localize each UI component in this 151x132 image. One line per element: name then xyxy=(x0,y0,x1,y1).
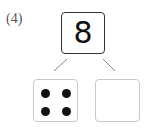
dot-icon xyxy=(62,107,71,116)
dots-part-box xyxy=(33,79,78,122)
dot-icon xyxy=(41,107,50,116)
dot-icon xyxy=(62,89,71,98)
answer-blank-box[interactable] xyxy=(95,79,140,122)
dot-icon xyxy=(41,89,50,98)
